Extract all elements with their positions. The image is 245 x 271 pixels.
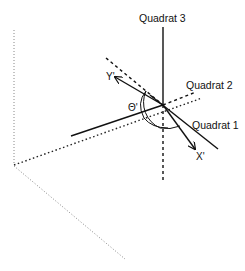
x-prime-label: X' — [196, 151, 205, 162]
quadrat2-dashed-line — [163, 92, 196, 105]
y-prime-arrow — [115, 77, 163, 105]
ref-diagonal-dotted-line — [14, 166, 125, 259]
reference-frame — [14, 30, 202, 259]
quadrat3-label: Quadrat 3 — [139, 12, 186, 24]
y-prime-label: Y' — [106, 71, 115, 82]
quadrat2-label: Quadrat 2 — [186, 79, 233, 91]
quadrat-axes-diagram: Quadrat 3 Quadrat 2 Quadrat 1 Y' X' Θ' — [0, 0, 245, 271]
theta-label: Θ' — [128, 102, 138, 113]
quadrat1-label: Quadrat 1 — [192, 119, 239, 131]
ref-horizontal-dotted-line — [14, 98, 202, 165]
left-solid-line — [71, 105, 163, 136]
